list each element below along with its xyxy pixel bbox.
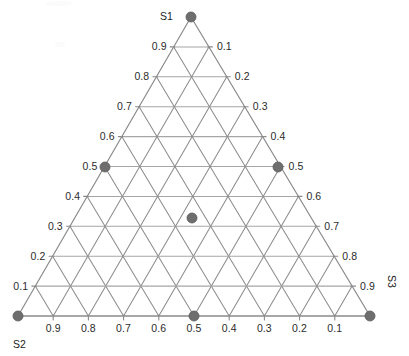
grid-line-right	[194, 167, 281, 317]
grid-line-left	[105, 167, 195, 317]
tick-label-left-axis: 0.9	[152, 41, 167, 52]
tick-label-right-axis: 0.9	[360, 281, 375, 292]
grid-line-right	[53, 47, 209, 316]
data-point-marker[interactable]	[100, 162, 110, 172]
grid-line-right	[335, 286, 352, 316]
tick-label-bottom-axis: 0.2	[292, 323, 307, 334]
grid-lines	[35, 47, 352, 316]
tick-label-bottom-axis: 0.6	[151, 323, 166, 334]
data-point-marker[interactable]	[187, 213, 197, 223]
data-point-marker[interactable]	[13, 311, 23, 321]
triangle-outline	[18, 17, 370, 320]
tick-label-bottom-axis: 0.1	[327, 323, 342, 334]
tick-label-left-axis: 0.4	[65, 191, 80, 202]
data-point-marker[interactable]	[186, 12, 196, 22]
tick-label-bottom-axis: 0.9	[46, 323, 61, 334]
vertex-label-s2: S2	[13, 339, 26, 350]
tick-label-left-axis: 0.5	[83, 161, 98, 172]
tick-label-right-axis: 0.4	[271, 131, 286, 142]
vertex-label-s1: S1	[160, 11, 173, 22]
tick-label-left-axis: 0.8	[134, 71, 149, 82]
tick-label-bottom-axis: 0.8	[81, 323, 96, 334]
tick-label-right-axis: 0.8	[342, 251, 357, 262]
tick-label-right-axis: 0.2	[235, 71, 250, 82]
tick-label-bottom-axis: 0.4	[222, 323, 237, 334]
grid-line-right	[124, 107, 245, 316]
tick-label-bottom-axis: 0.3	[257, 323, 272, 334]
grid-line-left	[139, 107, 264, 316]
tick-label-bottom-axis: 0.5	[187, 323, 202, 334]
grid-line-left	[35, 286, 53, 316]
data-point-marker[interactable]	[365, 311, 375, 321]
ternary-plot: 0.90.80.70.60.50.40.30.20.10.10.20.30.40…	[0, 0, 409, 356]
tick-label-left-axis: 0.7	[117, 101, 132, 112]
tick-label-right-axis: 0.6	[306, 191, 321, 202]
tick-label-left-axis: 0.2	[31, 251, 46, 262]
tick-label-right-axis: 0.5	[289, 161, 304, 172]
grid-line-left	[174, 47, 335, 316]
tick-label-left-axis: 0.1	[13, 281, 28, 292]
data-point-marker[interactable]	[273, 162, 283, 172]
ternary-grid-canvas	[0, 0, 409, 356]
tick-label-left-axis: 0.3	[48, 221, 63, 232]
tick-label-right-axis: 0.1	[217, 41, 232, 52]
vertex-label-s3: S3	[387, 275, 398, 288]
tick-label-bottom-axis: 0.7	[116, 323, 131, 334]
tick-label-right-axis: 0.3	[253, 101, 268, 112]
tick-label-left-axis: 0.6	[100, 131, 115, 142]
tick-label-right-axis: 0.7	[324, 221, 339, 232]
data-point-marker[interactable]	[189, 311, 199, 321]
